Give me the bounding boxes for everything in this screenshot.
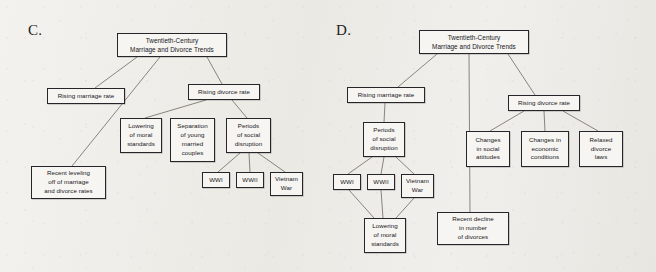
edge-c-root-to-c-divorce [207,57,222,84]
node-rising-divorce-rate: Rising divorce rate [508,95,580,111]
panel-label: D. [336,22,351,39]
node-label: Loweringof moralstandards [367,222,403,248]
node-changes-in-social-attitudes: Changesin socialattitudes [466,131,510,167]
node-label: Twentieth-CenturyMarriage and Divorce Tr… [422,33,526,51]
node-changes-in-economic-conditions: Changes ineconomicconditions [521,131,569,167]
node-twentieth-century-trends: Twentieth-CenturyMarriage and Divorce Tr… [419,30,529,54]
edge-c-divorce-to-c-periods [232,100,247,118]
node-relaxed-divorce-laws: Relaxeddivorcelaws [579,131,623,167]
edge-d-marriage-to-d-periods [384,103,385,122]
node-label: Twentieth-CenturyMarriage and Divorce Tr… [120,36,224,54]
node-lowering-of-moral-standards: Loweringof moralstandards [364,218,406,253]
node-label: Separationof youngmarriedcouples [173,122,212,157]
edge-d-vietnam-to-d-lowering [396,198,414,218]
node-periods-of-social-disruption: Periodsof socialdisruption [226,118,271,153]
node-twentieth-century-trends: Twentieth-CenturyMarriage and Divorce Tr… [117,33,227,57]
edge-c-periods-to-c-wwi [218,153,240,172]
node-label: Recent declinein numberof divorces [440,215,506,241]
edge-d-divorce-to-d-economic [544,111,545,131]
node-rising-divorce-rate: Rising divorce rate [188,84,260,100]
node-recent-decline-in-divorces: Recent declinein numberof divorces [437,212,509,245]
node-label: WWII [370,178,392,187]
node-label: Rising marriage rate [350,91,422,100]
node-vietnam-war: VietnamWar [401,174,434,198]
node-vietnam-war: VietnamWar [270,172,303,196]
node-label: VietnamWar [273,175,300,193]
node-rising-marriage-rate: Rising marriage rate [47,88,125,104]
edge-c-periods-to-c-wwii [249,153,250,172]
node-wwi: WWI [202,172,230,188]
diagram-canvas: C.Twentieth-CenturyMarriage and Divorce … [0,0,656,272]
edge-d-root-to-d-marriage [398,54,437,87]
node-label: Loweringof moralstandards [123,122,159,148]
edge-d-divorce-to-d-social [490,111,524,131]
node-label: Rising marriage rate [50,92,122,101]
node-wwi: WWI [333,174,361,190]
node-label: Rising divorce rate [511,99,577,108]
node-label: Changes ineconomicconditions [524,136,566,162]
edge-d-periods-to-d-vietnam [396,157,414,174]
edge-d-periods-to-d-wwii [381,157,384,174]
node-separation-of-young-married-couples: Separationof youngmarriedcouples [170,118,215,162]
node-label: Changesin socialattitudes [469,136,507,162]
node-label: Periodsof socialdisruption [366,126,402,152]
node-label: WWII [239,176,261,185]
edge-d-wwi-to-d-lowering [349,190,374,218]
node-label: VietnamWar [404,177,431,195]
node-wwii: WWII [367,174,395,190]
node-label: Relaxeddivorcelaws [582,136,620,162]
node-label: Recent levelingoff of marriageand divorc… [34,169,103,195]
edge-d-periods-to-d-wwi [348,157,372,174]
node-label: WWI [205,176,227,185]
edge-d-divorce-to-d-relaxed [563,111,598,131]
node-lowering-of-moral-standards: Loweringof moralstandards [120,118,162,153]
node-label: WWI [336,178,358,187]
node-periods-of-social-disruption: Periodsof socialdisruption [363,122,405,157]
panel-label: C. [28,22,42,39]
node-wwii: WWII [236,172,264,188]
node-label: Rising divorce rate [191,88,257,97]
node-rising-marriage-rate: Rising marriage rate [347,87,425,103]
node-label: Periodsof socialdisruption [229,122,268,148]
edge-c-divorce-to-c-lowering [145,100,206,118]
edge-c-root-to-c-marriage [95,57,137,88]
edge-c-periods-to-c-vietnam [258,153,285,172]
edge-d-root-to-d-divorce [508,54,535,95]
node-recent-leveling-off: Recent levelingoff of marriageand divorc… [31,166,106,199]
edge-d-wwii-to-d-lowering [381,190,383,218]
